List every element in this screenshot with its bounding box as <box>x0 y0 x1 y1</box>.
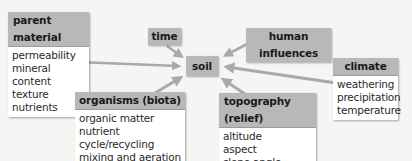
climate-list: weathering precipitation temperature <box>333 76 398 120</box>
list-item: nutrient cycle/recycling <box>79 125 181 151</box>
climate-box: climate weathering precipitation tempera… <box>333 58 398 120</box>
time-box: time <box>148 28 181 45</box>
arrow-climate <box>227 67 336 83</box>
list-item: slope angle <box>223 156 312 161</box>
list-item: aspect <box>223 143 312 156</box>
topography-title: topography (relief) <box>219 93 316 128</box>
arrow-time <box>167 46 181 56</box>
climate-title: climate <box>333 58 398 76</box>
list-item: precipitation <box>337 91 394 104</box>
list-item: permeability <box>12 49 85 62</box>
organisms-list: organic matter nutrient cycle/recycling … <box>75 110 185 161</box>
list-item: organic matter <box>79 112 181 125</box>
parent-material-title: parent material <box>8 12 89 47</box>
soil-box: soil <box>186 56 218 76</box>
list-item: mineral content <box>12 62 85 88</box>
topography-list: altitude aspect slope angle <box>219 128 316 161</box>
list-item: weathering <box>337 78 394 91</box>
list-item: temperature <box>337 104 394 117</box>
arrow-parent-material <box>78 62 178 66</box>
organisms-box: organisms (biota) organic matter nutrien… <box>75 92 185 161</box>
list-item: mixing and aeration <box>79 151 181 161</box>
human-influences-box: human influences <box>246 28 331 62</box>
topography-box: topography (relief) altitude aspect slop… <box>219 93 316 161</box>
organisms-title: organisms (biota) <box>75 92 185 110</box>
list-item: altitude <box>223 130 312 143</box>
